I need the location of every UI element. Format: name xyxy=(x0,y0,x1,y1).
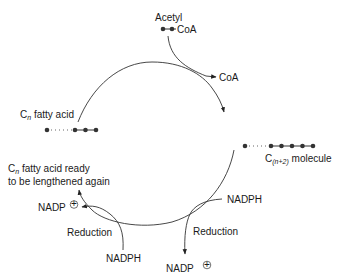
coa-released-label: CoA xyxy=(219,72,239,83)
acetyl-coa-group: Acetyl CoA xyxy=(155,12,197,35)
left-nadp-label: NADP xyxy=(38,202,66,213)
carbon-atom-icon xyxy=(279,144,284,149)
plus-symbol: + xyxy=(204,259,210,270)
right-reduction-label: Reduction xyxy=(193,226,238,237)
acetyl-coa-label: CoA xyxy=(177,24,197,35)
cn2-molecule-label: C(n+2) molecule xyxy=(265,153,332,166)
plus-symbol: + xyxy=(71,198,77,209)
cycle-bottom-arc xyxy=(79,150,234,225)
carbon-atom-icon xyxy=(290,144,295,149)
carbon-atom-icon xyxy=(45,128,50,133)
ready-fatty-acid-group: Cn fatty acid ready to be lengthened aga… xyxy=(8,163,110,187)
carbon-atom-icon xyxy=(161,27,166,32)
carbon-atom-icon xyxy=(300,144,305,149)
carbon-atom-icon xyxy=(94,128,99,133)
cn2-molecule-group: C(n+2) molecule xyxy=(243,144,332,166)
right-nadp-plus-group: NADP + xyxy=(166,259,211,274)
ready-line1-label: Cn fatty acid ready xyxy=(8,163,90,175)
carbon-atom-icon xyxy=(311,144,316,149)
carbon-atom-icon xyxy=(243,144,248,149)
carbon-atom-icon xyxy=(170,27,175,32)
fatty-acid-cycle-diagram: Acetyl CoA CoA Cn fatty acid C(n+2) mole… xyxy=(0,0,351,274)
ready-line2-label: to be lengthened again xyxy=(8,176,110,187)
cycle-top-arc xyxy=(78,62,224,122)
right-nadph-label: NADPH xyxy=(227,194,262,205)
acetyl-label: Acetyl xyxy=(155,12,182,23)
left-reduction-label: Reduction xyxy=(67,227,112,238)
right-nadp-label: NADP xyxy=(166,263,194,274)
cn-fatty-acid-label: Cn fatty acid xyxy=(20,109,74,121)
left-nadph-label: NADPH xyxy=(106,253,141,264)
carbon-atom-icon xyxy=(73,128,78,133)
carbon-atom-icon xyxy=(269,144,274,149)
cn-fatty-acid-group: Cn fatty acid xyxy=(20,109,98,132)
left-nadp-plus-group: NADP + xyxy=(38,198,78,213)
carbon-atom-icon xyxy=(83,128,88,133)
